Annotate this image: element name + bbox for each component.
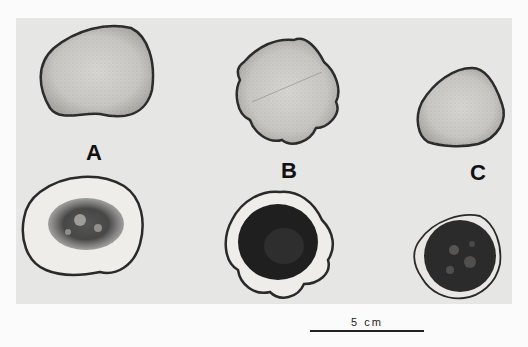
- specimen-b-bottom: [222, 184, 340, 304]
- panel-label-a: A: [86, 140, 102, 166]
- panel-label-b: B: [281, 158, 297, 184]
- specimen-a-top: [36, 22, 156, 126]
- specimen-a-bottom: [20, 172, 148, 282]
- panel-label-c: C: [470, 160, 486, 186]
- specimen-photograph: A B C: [16, 18, 512, 304]
- specimen-c-top: [414, 62, 510, 152]
- specimen-b-top: [232, 32, 350, 152]
- specimen-c-bottom: [410, 210, 506, 306]
- scale-bar-label: 5 cm: [310, 316, 424, 328]
- scale-bar-line: [310, 330, 424, 332]
- scale-bar: 5 cm: [310, 316, 424, 332]
